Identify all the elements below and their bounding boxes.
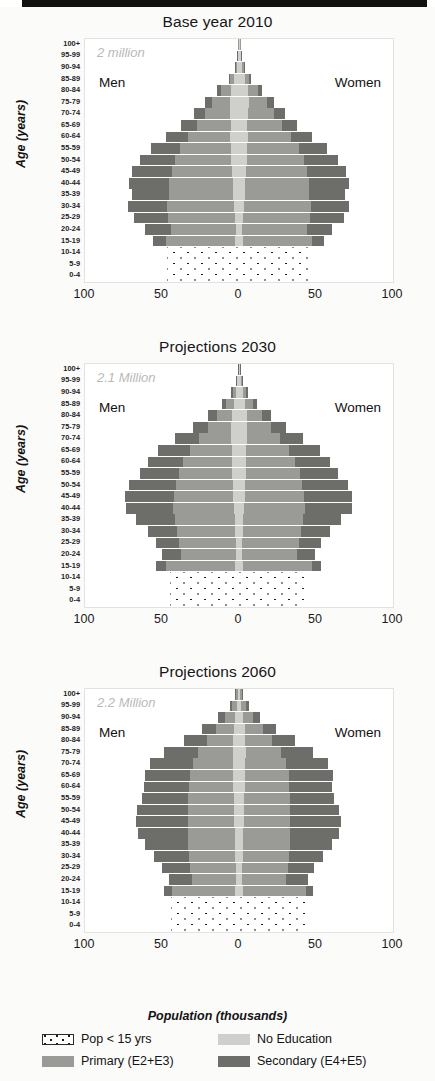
bar-segment-primary-men: [236, 689, 238, 700]
pyramid-row: [85, 724, 393, 735]
pyramid-row: [85, 155, 393, 166]
bar-segment-primary-men: [230, 74, 234, 85]
bar-segment-primary-men: [177, 526, 236, 537]
bar-segment-noedu-men: [232, 410, 239, 421]
bar-segment-primary-women: [243, 526, 302, 537]
bar-segment-secondary-men: [156, 538, 179, 549]
bar-segment-primary-women: [245, 399, 253, 410]
pyramid-row: [85, 364, 393, 375]
legend-item-secondary: Secondary (E4+E5): [218, 1051, 366, 1071]
bar-segment-noedu-men: [231, 422, 239, 433]
bar-segment-primary-women: [246, 747, 281, 758]
y-axis-ticks: 100+95-9990-9485-8980-8475-7970-7465-696…: [36, 38, 82, 283]
bar-segment-primary-women: [243, 712, 253, 723]
y-tick-label: 15-19: [61, 887, 80, 895]
bar-segment-secondary-men: [145, 839, 188, 850]
legend-label: Pop < 15 yrs: [81, 1032, 152, 1046]
bar-segment-primary-men: [189, 782, 234, 793]
pyramid-row: [85, 201, 393, 212]
y-tick-label: 90-94: [61, 388, 80, 396]
bar-segment-secondary-men: [217, 85, 221, 96]
legend-label: Secondary (E4+E5): [257, 1054, 366, 1068]
bar-segment-secondary-women: [307, 166, 346, 177]
bar-segment-secondary-women: [282, 120, 297, 131]
bar-segment-secondary-men: [144, 782, 189, 793]
bar-segment-primary-men: [188, 828, 235, 839]
bar-segment-secondary-men: [175, 433, 199, 444]
bar-segment-secondary-men: [181, 120, 196, 131]
bar-segment-secondary-men: [136, 514, 175, 525]
x-tick-label: 100: [382, 612, 403, 626]
y-tick-label: 35-39: [61, 515, 80, 523]
y-axis-title: Age (years): [14, 729, 28, 839]
legend-item-no-education: No Education: [218, 1029, 332, 1049]
bar-segment-noedu-women: [239, 97, 249, 108]
bar-segment-primary-women: [243, 839, 290, 850]
legend-item-pop-under-15: Pop < 15 yrs: [42, 1029, 152, 1049]
bar-segment-noedu-women: [239, 468, 246, 479]
y-tick-label: 90-94: [61, 63, 80, 71]
bar-segment-secondary-men: [235, 689, 236, 700]
bar-segment-primary-women: [242, 549, 297, 560]
bar-segment-secondary-women: [309, 189, 345, 200]
bar-segment-secondary-women: [290, 805, 339, 816]
bar-segment-secondary-men: [208, 410, 217, 421]
y-tick-label: 95-99: [61, 376, 80, 384]
bar-segment-secondary-women: [290, 839, 332, 850]
legend: Pop < 15 yrs No Education Primary (E2+E3…: [0, 1025, 435, 1081]
bar-segment-secondary-men: [229, 74, 230, 85]
bars-layer: [85, 364, 393, 607]
pyramid-row: [85, 433, 393, 444]
bar-segment-secondary-men: [166, 132, 188, 143]
y-tick-label: 5-9: [69, 260, 80, 268]
y-tick-label: 65-69: [61, 446, 80, 454]
bar-segment-primary-men: [188, 816, 234, 827]
pyramid-row: [85, 376, 393, 387]
y-tick-label: 75-79: [61, 423, 80, 431]
y-tick-label: 0-4: [69, 921, 80, 929]
y-tick-label: 55-59: [61, 144, 80, 152]
bar-segment-secondary-men: [164, 886, 172, 897]
bar-segment-secondary-women: [305, 503, 352, 514]
pyramid-row: [85, 143, 393, 154]
bar-segment-primary-women: [243, 213, 311, 224]
bar-segment-primary-men: [188, 805, 234, 816]
y-tick-label: 20-24: [61, 550, 80, 558]
y-tick-label: 60-64: [61, 132, 80, 140]
bar-segment-secondary-women: [249, 74, 250, 85]
pyramid-row: [85, 782, 393, 793]
bar-segment-primary-women: [246, 468, 300, 479]
pattern-swatch-icon: [42, 1034, 74, 1045]
bar-segment-primary-women: [243, 514, 303, 525]
panel-title: Base year 2010: [0, 13, 435, 31]
bar-segment-secondary-women: [289, 770, 333, 781]
pyramid-row: [85, 561, 393, 572]
bar-segment-primary-women: [245, 770, 289, 781]
y-tick-label: 85-89: [61, 400, 80, 408]
bar-segment-primary-women: [247, 433, 280, 444]
y-tick-label: 10-14: [61, 898, 80, 906]
bar-segment-noedu-women: [239, 747, 246, 758]
bar-segment-primary-women: [246, 457, 295, 468]
panel-2010: Base year 2010 Age (years) 100+95-9990-9…: [0, 7, 435, 332]
x-tick-label: 0: [235, 937, 242, 951]
pyramid-row: [85, 410, 393, 421]
bar-segment-primary-men: [199, 433, 231, 444]
bar-segment-secondary-women: [258, 85, 262, 96]
bar-segment-primary-women: [244, 793, 289, 804]
bar-segment-secondary-women: [289, 782, 332, 793]
bar-segment-primary-women: [242, 863, 287, 874]
bar-segment-primary-men: [193, 758, 233, 769]
y-tick-label: 25-29: [61, 538, 80, 546]
bar-segment-secondary-men: [134, 213, 168, 224]
bar-segment-primary-women: [243, 561, 312, 572]
pop-under-15-block: [167, 247, 310, 282]
pyramid-row: [85, 62, 393, 73]
x-tick-label: 50: [154, 612, 168, 626]
bar-segment-primary-men: [198, 747, 233, 758]
pyramid-row: [85, 445, 393, 456]
color-swatch-icon: [42, 1056, 74, 1067]
bar-segment-secondary-men: [202, 724, 216, 735]
color-swatch-icon: [218, 1056, 250, 1067]
bar-segment-noedu-women: [239, 166, 246, 177]
